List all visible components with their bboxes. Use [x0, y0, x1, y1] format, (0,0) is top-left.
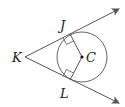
label-c: C: [86, 50, 96, 65]
radius-cj: [70, 34, 82, 57]
center-point-c: [80, 55, 83, 58]
ray-kl: [25, 57, 119, 103]
label-l: L: [59, 86, 69, 101]
tangent-diagram: J K C L: [0, 0, 125, 107]
ray-kj: [25, 9, 119, 57]
label-j: J: [57, 18, 66, 33]
radius-cl: [70, 57, 82, 80]
diagram-canvas: J K C L: [0, 0, 125, 107]
label-k: K: [11, 50, 23, 65]
